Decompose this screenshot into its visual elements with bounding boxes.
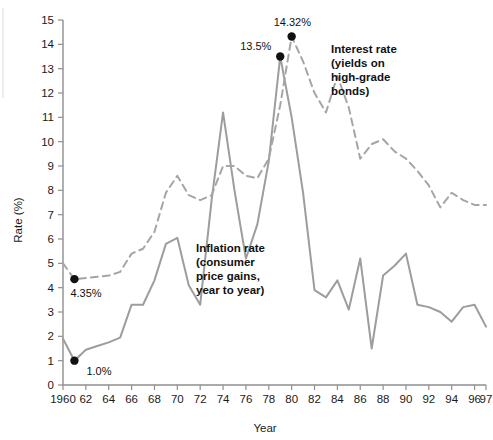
x-tick-label: 94 [445,393,458,405]
y-tick-label: 14 [41,38,54,50]
annotation-label: 1.0% [86,365,111,377]
annotation-marker [70,356,78,364]
annotation-marker [70,275,78,283]
annotation-label: 14.32% [274,16,312,28]
annotation-marker [276,52,284,60]
annotation-label: 13.5% [240,40,271,52]
x-tick-label: 70 [171,393,184,405]
y-tick-label: 7 [48,209,54,221]
x-tick-label: 68 [148,393,161,405]
y-tick-label: 1 [48,355,54,367]
chart-background [0,0,493,440]
x-tick-label: 62 [79,393,92,405]
x-tick-label: 90 [400,393,413,405]
y-tick-label: 4 [48,282,55,294]
y-tick-label: 13 [41,63,54,75]
y-tick-label: 11 [42,111,54,123]
y-tick-label: 8 [48,184,54,196]
annotation-label: 4.35% [70,287,101,299]
y-tick-label: 5 [48,257,54,269]
y-tick-label: 12 [41,87,54,99]
chart-container: 0123456789101112131415196062646668707274… [0,0,493,440]
x-tick-label: 86 [354,393,367,405]
y-tick-label: 6 [48,233,54,245]
x-tick-label: 64 [102,393,115,405]
x-tick-label: 78 [262,393,275,405]
x-tick-label: 72 [194,393,207,405]
x-axis-title: Year [253,422,276,434]
series-label-line: high-grade [331,71,390,83]
series-label-line: (yields on [331,57,385,69]
series-label-line: Interest rate [331,43,397,55]
annotation-marker [287,32,295,40]
x-tick-label: 97 [480,393,493,405]
series-label-line: Inflation rate [196,242,265,254]
x-tick-label: 74 [217,393,230,405]
y-tick-label: 10 [41,136,54,148]
y-tick-label: 0 [48,379,54,391]
y-axis-title: Rate (%) [12,197,24,243]
y-tick-label: 15 [41,14,54,26]
rate-comparison-line-chart: 0123456789101112131415196062646668707274… [0,0,493,440]
x-tick-label: 80 [285,393,298,405]
x-tick-label: 82 [308,393,321,405]
series-label-line: year to year) [196,284,265,296]
series-label-line: bonds) [331,85,369,97]
y-tick-label: 2 [48,330,54,342]
y-tick-label: 9 [48,160,54,172]
series-label-line: (consumer [196,256,255,268]
x-tick-label: 66 [125,393,138,405]
y-tick-label: 3 [48,306,54,318]
series-label-line: price gains, [196,270,260,282]
x-tick-label: 76 [240,393,253,405]
x-tick-label: 84 [331,393,344,405]
x-tick-label: 92 [422,393,435,405]
x-tick-label: 88 [377,393,390,405]
x-tick-label: 1960 [50,393,76,405]
